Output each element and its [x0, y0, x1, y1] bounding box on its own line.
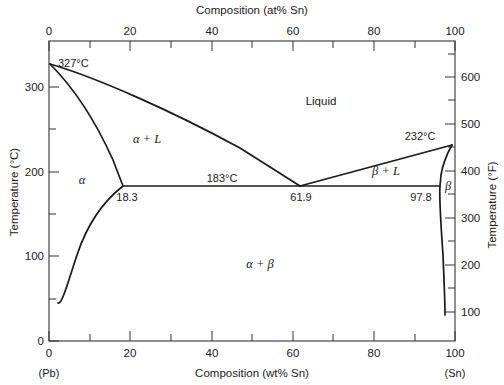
- right-tick-100: 100: [461, 306, 480, 318]
- left-tick-100: 100: [25, 250, 44, 262]
- bottom-tick-80: 80: [368, 347, 381, 359]
- bottom-tick-40: 40: [206, 347, 219, 359]
- annotation-alpha-max-solubility: 18.3: [116, 191, 137, 203]
- top-tick-20: 20: [124, 25, 137, 37]
- bottom-axis-right-end-label: (Sn): [445, 367, 466, 379]
- right-tick-400: 400: [461, 165, 480, 177]
- bottom-tick-60: 60: [287, 347, 300, 359]
- top-tick-0: 0: [46, 25, 52, 37]
- top-tick-40: 40: [206, 25, 219, 37]
- right-tick-200: 200: [461, 259, 480, 271]
- left-tick-200: 200: [25, 166, 44, 178]
- bottom-axis-left-end-label: (Pb): [39, 367, 60, 379]
- annotation-beta-max-solubility: 97.8: [410, 191, 431, 203]
- right-tick-300: 300: [461, 212, 480, 224]
- top-tick-100: 100: [445, 25, 464, 37]
- left-axis-title: Temperature (°C): [8, 148, 20, 236]
- annotation-eutectic-temperature: 183°C: [207, 172, 238, 184]
- bottom-tick-20: 20: [124, 347, 137, 359]
- right-tick-600: 600: [461, 71, 480, 83]
- bottom-tick-100: 100: [445, 347, 464, 359]
- annotation-pb-melting-point: 327°C: [58, 57, 89, 69]
- phase-diagram: Composition (at% Sn) 0 20 40 60 80 100 0…: [0, 0, 504, 385]
- phase-label-alpha: α: [79, 173, 86, 187]
- phase-label-alpha-plus-beta: α + β: [246, 257, 274, 271]
- top-axis-title: Composition (at% Sn): [196, 4, 308, 16]
- left-tick-0: 0: [38, 335, 44, 347]
- top-tick-80: 80: [368, 25, 381, 37]
- phase-label-beta: β: [444, 179, 452, 193]
- right-axis-title: Temperature (°F): [486, 161, 498, 248]
- phase-label-liquid: Liquid: [306, 95, 337, 107]
- annotation-sn-melting-point: 232°C: [405, 130, 436, 142]
- phase-label-alpha-plus-liquid: α + L: [133, 132, 161, 146]
- top-tick-60: 60: [287, 25, 300, 37]
- bottom-tick-0: 0: [46, 347, 52, 359]
- bottom-axis-title: Composition (wt% Sn): [195, 367, 309, 379]
- phase-label-beta-plus-liquid: β + L: [371, 164, 400, 178]
- annotation-eutectic-composition: 61.9: [290, 191, 311, 203]
- left-tick-300: 300: [25, 81, 44, 93]
- right-tick-500: 500: [461, 118, 480, 130]
